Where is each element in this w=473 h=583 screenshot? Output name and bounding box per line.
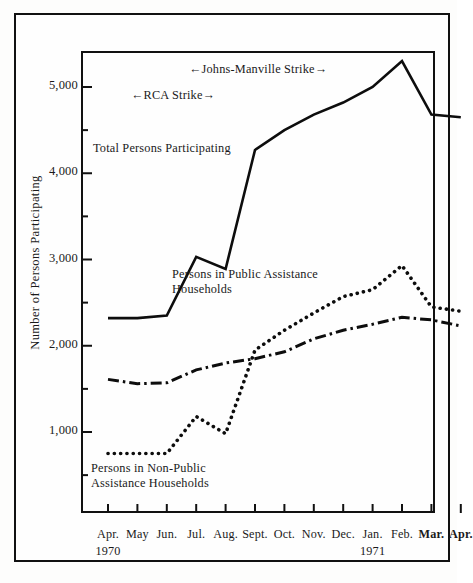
- series-line-dash-dot: [108, 317, 461, 383]
- series-label-non-public-assistance: Persons in Non-Public Assistance Househo…: [91, 461, 209, 491]
- x-axis-tick-label: Nov.: [302, 527, 326, 542]
- x-axis-tick-label: Feb.: [391, 527, 413, 542]
- annotation-johns-manville-strike: ←Johns-Manville Strike→: [189, 62, 327, 77]
- annotation-rca-strike: ←RCA Strike→: [131, 88, 215, 103]
- x-axis-tick-label: Jul.: [187, 527, 205, 542]
- x-axis-year-label: 1970: [95, 544, 120, 559]
- x-axis-year-label: 1971: [360, 544, 385, 559]
- x-axis-tick-label: Jan.: [363, 527, 383, 542]
- series-label-total: Total Persons Participating: [93, 141, 231, 156]
- series-label-public-assistance: Persons in Public Assistance Households: [172, 267, 318, 297]
- x-axis-tick-label: Apr.: [449, 527, 473, 542]
- x-axis-tick-label: Dec.: [331, 527, 354, 542]
- x-axis-tick-label: Jun.: [156, 527, 177, 542]
- x-axis-tick-label: Sept.: [242, 527, 268, 542]
- x-axis-tick-label: Apr.: [97, 527, 119, 542]
- x-axis-tick-label: Oct.: [274, 527, 295, 542]
- x-axis-tick-label: May: [126, 527, 149, 542]
- x-axis-tick-label: Mar.: [419, 527, 445, 542]
- x-axis-tick-label: Aug.: [213, 527, 238, 542]
